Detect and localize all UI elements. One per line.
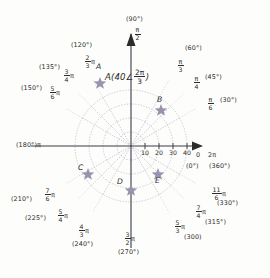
- den-225: 4: [58, 217, 64, 223]
- den-300: 3: [175, 228, 181, 234]
- point-marker-C: [82, 168, 95, 180]
- angle-symbol-icon: ∠: [126, 73, 134, 82]
- radial-tick-10: 10: [141, 150, 149, 156]
- den-240: 3: [79, 232, 85, 238]
- spoke-angle-225: 5 4 π: [57, 209, 68, 223]
- num-210: 7: [45, 188, 51, 194]
- point-label-D: D: [117, 178, 123, 186]
- den-135: 4: [64, 77, 70, 83]
- annotation-denominator: 3: [134, 78, 145, 85]
- axis-angle-270: 3 2 π: [124, 232, 135, 246]
- num-270: 3: [125, 232, 131, 238]
- pi-symbol-210: π: [51, 192, 55, 199]
- num-135: 3: [64, 69, 70, 75]
- pi-symbol-180: π: [37, 142, 41, 148]
- axis-label-180-degrees: (180°)π: [16, 142, 41, 148]
- spoke-degree-45: (45°): [205, 74, 222, 80]
- den-60: 3: [178, 67, 184, 73]
- spoke-angle-135: 3 4 π: [63, 69, 74, 83]
- spoke-degree-150: (150°): [21, 85, 42, 91]
- annotation-open: A(40: [105, 73, 126, 82]
- point-label-C: C: [78, 164, 83, 172]
- spoke-degree-210: (210°): [11, 196, 32, 202]
- axis-label-pi-over-2: π 2: [134, 26, 141, 42]
- x-axis-arrow: [192, 142, 203, 151]
- radial-tick-20: 20: [155, 150, 163, 156]
- spoke-degree-315: (315°): [205, 219, 226, 225]
- pi-symbol-135: π: [70, 73, 74, 80]
- annotation-close: ): [146, 73, 149, 82]
- num-330: 11: [212, 187, 222, 193]
- pi-symbol-120: π: [91, 59, 95, 66]
- annotation-numerator: 2π: [134, 69, 145, 76]
- spoke-degree-60: (60°): [185, 45, 202, 51]
- den-120: 3: [85, 63, 91, 69]
- axis-label-90-degrees: (90°): [126, 16, 143, 22]
- spoke-degree-30: (30°): [220, 97, 237, 103]
- num-240: 4: [79, 224, 85, 230]
- axis-label-zero: 0: [196, 152, 200, 158]
- den-210: 6: [45, 196, 51, 202]
- radial-tick-30: 30: [169, 150, 177, 156]
- den-30: 6: [208, 105, 214, 111]
- den-270: 2: [125, 240, 131, 246]
- den-150: 6: [50, 94, 56, 100]
- num-120: 2: [85, 55, 91, 61]
- pi-symbol-150: π: [56, 90, 60, 97]
- spoke-angle-60: π 3: [177, 59, 184, 73]
- axis-degree-0: (0°): [186, 163, 199, 169]
- radial-tick-40: 40: [183, 150, 191, 156]
- spoke-angle-45: π 4: [193, 76, 200, 90]
- den-315: 4: [196, 213, 202, 219]
- pi-symbol-330: π: [222, 191, 226, 198]
- pi-over-2-numerator: π: [135, 27, 141, 33]
- point-A-annotation: A(40 ∠ 2π 3 ): [105, 69, 149, 86]
- num-30: π: [208, 97, 214, 103]
- point-label-E: E: [155, 177, 160, 185]
- pi-symbol-270: π: [131, 236, 135, 243]
- point-label-A: A: [96, 63, 101, 71]
- num-300: 5: [175, 220, 181, 226]
- spoke-degree-300: (300): [184, 234, 202, 240]
- spoke-angle-210: 7 6 π: [44, 188, 55, 202]
- spoke-angle-120: 2 3 π: [84, 55, 95, 69]
- point-label-B: B: [157, 96, 162, 104]
- pi-symbol-240: π: [85, 228, 89, 235]
- num-315: 7: [196, 205, 202, 211]
- num-45: π: [194, 76, 200, 82]
- spoke-degree-225: (225°): [25, 215, 46, 221]
- pi-symbol-300: π: [181, 224, 185, 231]
- spoke-degree-330: (330°): [217, 200, 238, 206]
- deg-180: (180°): [16, 142, 37, 148]
- spoke-degree-135: (135°): [39, 64, 60, 70]
- spoke-degree-240: (240°): [72, 241, 93, 247]
- spoke-angle-240: 4 3 π: [78, 224, 89, 238]
- point-marker-B: [155, 104, 168, 116]
- pi-symbol-315: π: [202, 209, 206, 216]
- spoke-angle-150: 5 6 π: [49, 86, 60, 100]
- num-150: 5: [50, 86, 56, 92]
- axis-label-2pi: 2π: [208, 152, 216, 158]
- spoke-angle-30: π 6: [207, 97, 214, 111]
- axis-degree-270: (270°): [118, 249, 139, 255]
- pi-over-2-denominator: 2: [135, 35, 141, 41]
- pi-symbol-225: π: [64, 213, 68, 220]
- spoke-degree-120: (120°): [71, 42, 92, 48]
- num-60: π: [178, 59, 184, 65]
- axis-degree-360: (360°): [209, 163, 230, 169]
- den-45: 4: [194, 84, 200, 90]
- num-225: 5: [58, 209, 64, 215]
- polar-chart-figure: (90°) π 2 (120°) 2 3 π (135°) 3 4 π (150…: [0, 0, 270, 278]
